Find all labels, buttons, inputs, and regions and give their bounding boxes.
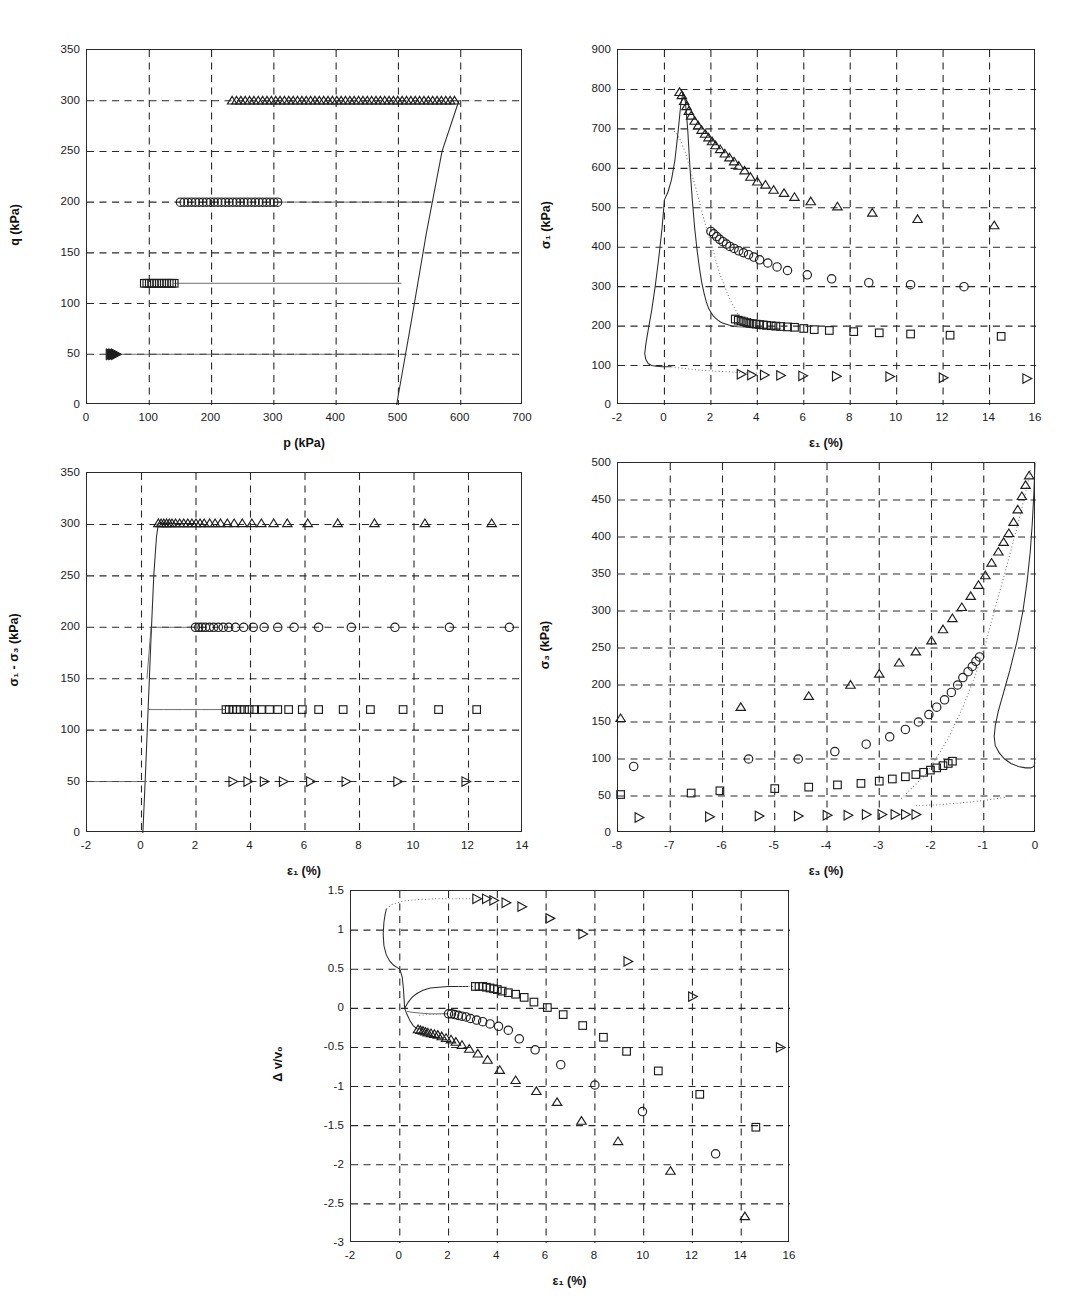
x-tick-label: 14 — [734, 1249, 747, 1261]
x-tick-label: 8 — [591, 1249, 598, 1261]
x-tick-label: 6 — [542, 1249, 549, 1261]
x-tick-label: 0 — [396, 1249, 403, 1261]
series-triangle-up — [413, 1025, 749, 1220]
x-tick-label: 10 — [636, 1249, 649, 1261]
y-tick-label: 0 — [304, 1001, 344, 1013]
x-axis-title: ε₁ (%) — [552, 1274, 586, 1288]
gridlines — [351, 891, 790, 1243]
curve-model-top — [383, 909, 404, 1008]
x-tick-label: 12 — [685, 1249, 698, 1261]
y-tick-label: 1 — [304, 923, 344, 935]
plot-canvas — [351, 891, 790, 1243]
series-triangle-right — [473, 894, 785, 1052]
series-circle — [444, 1010, 719, 1158]
y-axis-title: Δ v/v₀ — [271, 888, 285, 1240]
x-tick-label: 16 — [783, 1249, 796, 1261]
x-tick-label: 2 — [444, 1249, 451, 1261]
plot-area-panel-volstrain — [350, 890, 789, 1242]
x-tick-label: -2 — [345, 1249, 355, 1261]
y-tick-label: 0.5 — [304, 962, 344, 974]
y-tick-label: -1 — [304, 1080, 344, 1092]
y-tick-label: 1.5 — [304, 884, 344, 896]
x-tick-label: 4 — [493, 1249, 500, 1261]
y-tick-label: -2 — [304, 1158, 344, 1170]
series-square — [472, 983, 760, 1131]
y-tick-label: -1.5 — [304, 1119, 344, 1131]
curve-model-low2 — [407, 1011, 448, 1013]
chart-panel-panel-volstrain: -3-2.5-2-1.5-1-0.500.511.5-2024681012141… — [0, 0, 1067, 1312]
curve-model-mid — [405, 986, 468, 1008]
y-tick-label: -0.5 — [304, 1040, 344, 1052]
y-tick-label: -3 — [304, 1236, 344, 1248]
y-tick-label: -2.5 — [304, 1197, 344, 1209]
